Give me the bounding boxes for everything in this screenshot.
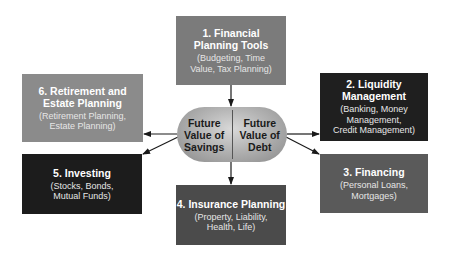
box-liquidity-management: 2. Liquidity Management (Banking, Money …: [320, 73, 428, 141]
arrow-center-to-box5: [143, 137, 178, 154]
box-title: 3. Financing: [343, 166, 404, 178]
subtitle-line: Estate Planning): [39, 121, 126, 132]
title-line: 2. Liquidity: [342, 78, 406, 90]
box-subtitle: (Retirement Planning, Estate Planning): [39, 111, 126, 132]
pill-line: Value of: [240, 129, 280, 141]
title-line: 3. Financing: [343, 166, 404, 178]
box-insurance-planning: 4. Insurance Planning (Property, Liabili…: [176, 185, 286, 245]
box-financial-planning-tools: 1. Financial Planning Tools (Budgeting, …: [176, 16, 286, 85]
subtitle-line: (Retirement Planning,: [39, 111, 126, 122]
subtitle-line: (Banking, Money: [333, 104, 415, 115]
title-line: Management: [342, 90, 406, 102]
subtitle-line: (Personal Loans,: [340, 180, 408, 191]
future-value-of-debt: Future Value of Debt: [233, 107, 288, 162]
center-future-value-pill: Future Value of Savings Future Value of …: [177, 107, 287, 162]
box-financing: 3. Financing (Personal Loans, Mortgages): [320, 154, 428, 213]
title-line: Planning Tools: [194, 39, 268, 51]
subtitle-line: (Stocks, Bonds,: [50, 181, 113, 192]
future-value-of-savings: Future Value of Savings: [177, 107, 232, 162]
box-title: 5. Investing: [53, 167, 111, 179]
box-subtitle: (Personal Loans, Mortgages): [340, 180, 408, 201]
box-subtitle: (Budgeting, Time Value, Tax Planning): [190, 53, 272, 74]
pill-line: Future: [240, 117, 280, 129]
subtitle-line: Credit Management): [333, 125, 415, 136]
subtitle-line: Mortgages): [340, 191, 408, 202]
pill-line: Future: [184, 117, 224, 129]
box-title: 4. Insurance Planning: [177, 198, 286, 210]
title-line: 5. Investing: [53, 167, 111, 179]
subtitle-line: (Property, Liability,: [194, 212, 267, 223]
box-subtitle: (Property, Liability, Health, Life): [194, 212, 267, 233]
box-title: 2. Liquidity Management: [342, 78, 406, 102]
title-line: 1. Financial: [194, 27, 268, 39]
arrow-center-to-box3: [286, 137, 319, 154]
box-retirement-estate-planning: 6. Retirement and Estate Planning (Retir…: [22, 74, 143, 142]
box-investing: 5. Investing (Stocks, Bonds, Mutual Fund…: [22, 154, 142, 214]
box-subtitle: (Banking, Money Management, Credit Manag…: [333, 104, 415, 136]
subtitle-line: Management,: [333, 115, 415, 126]
pill-line: Value of: [184, 129, 224, 141]
subtitle-line: Health, Life): [194, 222, 267, 233]
box-subtitle: (Stocks, Bonds, Mutual Funds): [50, 181, 113, 202]
pill-line: Debt: [240, 141, 280, 153]
subtitle-line: Mutual Funds): [50, 191, 113, 202]
subtitle-line: Value, Tax Planning): [190, 64, 272, 75]
box-title: 6. Retirement and Estate Planning: [38, 85, 126, 109]
pill-line: Savings: [184, 141, 224, 153]
title-line: 6. Retirement and: [38, 85, 126, 97]
title-line: Estate Planning: [38, 97, 126, 109]
subtitle-line: (Budgeting, Time: [190, 53, 272, 64]
title-line: 4. Insurance Planning: [177, 198, 286, 210]
box-title: 1. Financial Planning Tools: [194, 27, 268, 51]
